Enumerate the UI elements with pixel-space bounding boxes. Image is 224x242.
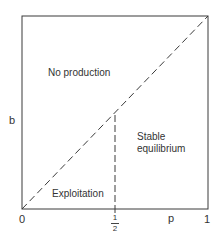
y-axis-label: b	[9, 114, 15, 126]
half-denominator: 2	[113, 224, 117, 233]
phase-diagram	[0, 0, 224, 242]
region-label-stable-line1: Stable	[137, 131, 165, 143]
x-axis-end-label: 1	[204, 213, 210, 225]
region-label-stable-line2: equilibrium	[137, 143, 185, 155]
half-numerator: 1	[113, 213, 117, 222]
x-axis-origin-label: 0	[19, 213, 25, 225]
region-label-exploitation: Exploitation	[52, 188, 104, 200]
region-label-no-production: No production	[48, 67, 110, 79]
x-axis-label: p	[168, 212, 174, 224]
x-axis-half-label: 1 2	[110, 214, 120, 233]
